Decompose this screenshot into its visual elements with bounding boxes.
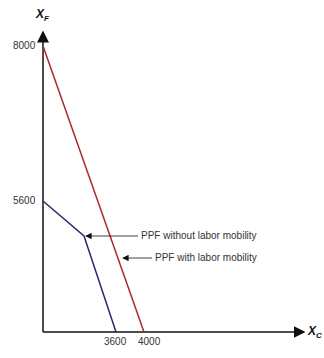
ppf-with-mobility-line bbox=[43, 46, 144, 332]
y-axis-title: XF bbox=[36, 7, 49, 23]
x-tick-4000: 4000 bbox=[138, 336, 160, 347]
x-tick-3600: 3600 bbox=[104, 336, 126, 347]
y-tick-5600: 5600 bbox=[13, 195, 35, 206]
ppf-chart bbox=[0, 0, 324, 358]
y-tick-8000: 8000 bbox=[13, 40, 35, 51]
x-axis-title: XC bbox=[308, 324, 322, 340]
annotation-without-mobility: PPF without labor mobility bbox=[141, 230, 257, 241]
annotation-with-mobility: PPF with labor mobility bbox=[155, 252, 257, 263]
